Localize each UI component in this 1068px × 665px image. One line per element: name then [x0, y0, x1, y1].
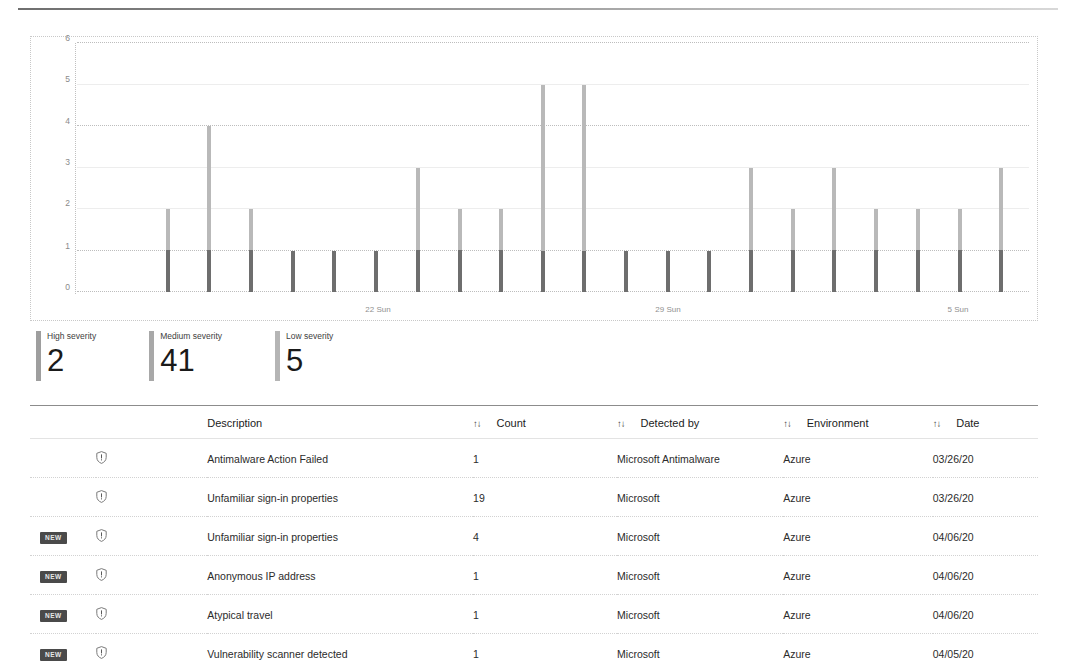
- chart-bar[interactable]: [166, 209, 170, 292]
- chart-bar[interactable]: [999, 168, 1003, 293]
- table-row[interactable]: NEWAnonymous IP address1MicrosoftAzure04…: [30, 556, 1038, 595]
- cell-count: 19: [473, 478, 617, 517]
- x-axis-tick-label: 29 Sun: [655, 305, 680, 314]
- sort-icon-environment[interactable]: ↑↓: [783, 418, 791, 429]
- chart-bar[interactable]: [499, 209, 503, 292]
- cell-environment: Azure: [783, 595, 933, 634]
- cell-count: 1: [473, 439, 617, 478]
- shield-alert-icon: [96, 607, 107, 620]
- table-row[interactable]: NEWVulnerability scanner detected1Micros…: [30, 634, 1038, 665]
- chart-bar[interactable]: [874, 209, 878, 292]
- cell-environment: Azure: [783, 556, 933, 595]
- chart-bar[interactable]: [832, 168, 836, 293]
- column-header-date[interactable]: ↑↓Date: [933, 406, 1038, 439]
- cell-severity-icon: [96, 556, 207, 595]
- chart-bar[interactable]: [791, 209, 795, 292]
- chart-bar[interactable]: [749, 168, 753, 293]
- column-header-environment[interactable]: ↑↓Environment: [783, 406, 933, 439]
- shield-alert-icon: [96, 568, 107, 581]
- cell-new-badge: NEW: [30, 556, 96, 595]
- y-axis-tick-5: 5: [65, 74, 70, 84]
- chart-bar[interactable]: [374, 251, 378, 293]
- column-header-environment-label: Environment: [807, 417, 869, 429]
- gridline-y-6: 6: [77, 42, 1029, 43]
- cell-new-badge: [30, 478, 96, 517]
- chart-bar[interactable]: [916, 209, 920, 292]
- cell-description: Unfamiliar sign-in properties: [207, 478, 473, 517]
- cell-description: Anonymous IP address: [207, 556, 473, 595]
- sort-icon-count[interactable]: ↑↓: [473, 418, 481, 429]
- cell-severity-icon: [96, 634, 207, 665]
- gridline-y-3: 3: [77, 167, 1029, 168]
- column-header-count[interactable]: ↑↓Count: [473, 406, 617, 439]
- severity-card: High severity2: [36, 331, 96, 381]
- y-axis-tick-3: 3: [65, 157, 70, 167]
- new-badge: NEW: [40, 532, 67, 544]
- column-header-detected-by[interactable]: ↑↓Detected by: [617, 406, 783, 439]
- cell-environment: Azure: [783, 634, 933, 665]
- table-row[interactable]: Unfamiliar sign-in properties19Microsoft…: [30, 478, 1038, 517]
- cell-count: 1: [473, 634, 617, 665]
- cell-detected-by: Microsoft: [617, 556, 783, 595]
- column-header-date-label: Date: [956, 417, 979, 429]
- chart-bar[interactable]: [624, 251, 628, 293]
- severity-count: 5: [286, 343, 333, 379]
- shield-alert-icon: [96, 490, 107, 503]
- y-axis-tick-6: 6: [65, 33, 70, 43]
- alerts-page: 012345622 Sun29 Sun5 Sun High severity2M…: [0, 0, 1068, 665]
- new-badge: NEW: [40, 571, 67, 583]
- chart-bar[interactable]: [541, 85, 545, 293]
- alerts-table: Description ↑↓Count ↑↓Detected by ↑↓Envi…: [30, 406, 1038, 665]
- sort-icon-date[interactable]: ↑↓: [933, 418, 941, 429]
- cell-new-badge: NEW: [30, 595, 96, 634]
- gridline-y-5: 5: [77, 84, 1029, 85]
- chart-bar[interactable]: [249, 209, 253, 292]
- new-badge: NEW: [40, 649, 67, 661]
- severity-color-bar: [36, 331, 41, 381]
- cell-date: 04/06/20: [933, 517, 1038, 556]
- chart-bar[interactable]: [416, 168, 420, 293]
- severity-count: 41: [160, 343, 222, 379]
- column-header-description[interactable]: Description: [207, 406, 473, 439]
- alerts-table-container: Description ↑↓Count ↑↓Detected by ↑↓Envi…: [30, 405, 1038, 665]
- cell-detected-by: Microsoft: [617, 634, 783, 665]
- y-axis-tick-4: 4: [65, 116, 70, 126]
- table-row[interactable]: NEWUnfamiliar sign-in properties4Microso…: [30, 517, 1038, 556]
- cell-count: 4: [473, 517, 617, 556]
- cell-severity-icon: [96, 595, 207, 634]
- severity-label: High severity: [47, 331, 96, 342]
- shield-alert-icon: [96, 451, 107, 464]
- chart-bar[interactable]: [707, 251, 711, 293]
- new-badge: NEW: [40, 610, 67, 622]
- column-header-new: [30, 406, 96, 439]
- cell-severity-icon: [96, 439, 207, 478]
- column-header-detected-by-label: Detected by: [641, 417, 700, 429]
- severity-summary: High severity2Medium severity41Low sever…: [36, 331, 386, 381]
- cell-date: 03/26/20: [933, 478, 1038, 517]
- x-axis-tick-label: 5 Sun: [948, 305, 969, 314]
- chart-bar[interactable]: [458, 209, 462, 292]
- chart-bar[interactable]: [332, 251, 336, 293]
- chart-bar[interactable]: [666, 251, 670, 293]
- column-header-count-label: Count: [497, 417, 526, 429]
- cell-date: 04/05/20: [933, 634, 1038, 665]
- cell-description: Vulnerability scanner detected: [207, 634, 473, 665]
- column-header-description-label: Description: [207, 417, 262, 429]
- cell-count: 1: [473, 595, 617, 634]
- cell-detected-by: Microsoft: [617, 595, 783, 634]
- chart-bar[interactable]: [291, 251, 295, 293]
- sort-icon-detected-by[interactable]: ↑↓: [617, 418, 625, 429]
- chart-bar[interactable]: [958, 209, 962, 292]
- cell-new-badge: [30, 439, 96, 478]
- table-row[interactable]: NEWAtypical travel1MicrosoftAzure04/06/2…: [30, 595, 1038, 634]
- chart-bar[interactable]: [582, 85, 586, 293]
- cell-description: Unfamiliar sign-in properties: [207, 517, 473, 556]
- cell-environment: Azure: [783, 439, 933, 478]
- gridline-y-1: 1: [77, 250, 1029, 251]
- chart-bar[interactable]: [207, 126, 211, 292]
- cell-severity-icon: [96, 517, 207, 556]
- cell-date: 04/06/20: [933, 595, 1038, 634]
- table-row[interactable]: Antimalware Action Failed1Microsoft Anti…: [30, 439, 1038, 478]
- severity-card: Low severity5: [275, 331, 333, 381]
- y-axis-line: [75, 43, 76, 294]
